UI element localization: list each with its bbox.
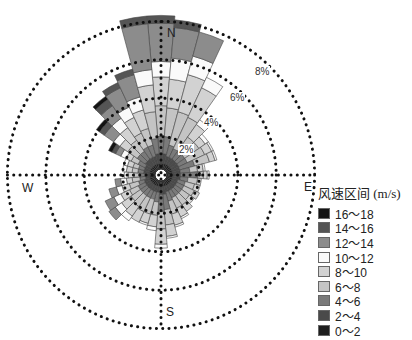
petal-segment xyxy=(122,24,152,73)
legend-item: 4～6 xyxy=(318,294,401,309)
legend-item: 10～12 xyxy=(318,250,401,265)
direction-label-west: W xyxy=(22,181,33,195)
legend-swatch-icon xyxy=(318,208,330,219)
legend-item: 14～16 xyxy=(318,221,401,236)
legend-swatch-icon xyxy=(318,281,330,292)
petal-segment xyxy=(151,61,171,77)
ring-label-8pct: 8% xyxy=(254,66,270,77)
speed-legend: 风速区间 (m/s) 16～1814～1612～1410～128～106～84～… xyxy=(318,183,401,337)
legend-swatch-icon xyxy=(318,222,330,233)
direction-label-east: E xyxy=(304,180,312,194)
legend-item: 12～14 xyxy=(318,235,401,250)
legend-title: 风速区间 (m/s) xyxy=(318,183,401,202)
direction-label-north: N xyxy=(167,26,176,40)
legend-swatch-icon xyxy=(318,295,330,306)
legend-swatch-icon xyxy=(318,266,330,277)
ring-label-2pct: 2% xyxy=(178,144,194,155)
legend-item: 2～4 xyxy=(318,308,401,323)
direction-label-south: S xyxy=(166,305,174,319)
ring-label-6pct: 6% xyxy=(229,92,245,103)
legend-swatch-icon xyxy=(318,252,330,263)
legend-item: 0～2 xyxy=(318,323,401,338)
petal-segment xyxy=(115,179,122,187)
legend-item: 8～10 xyxy=(318,264,401,279)
legend-label: 0～2 xyxy=(335,322,360,339)
legend-swatch-icon xyxy=(318,237,330,248)
legend-swatch-icon xyxy=(318,325,330,336)
legend-item: 6～8 xyxy=(318,279,401,294)
legend-swatch-icon xyxy=(318,310,330,321)
legend-item: 16～18 xyxy=(318,206,401,221)
ring-label-4pct: 4% xyxy=(203,117,219,128)
legend-items: 16～1814～1612～1410～128～106～84～62～40～2 xyxy=(318,206,401,337)
